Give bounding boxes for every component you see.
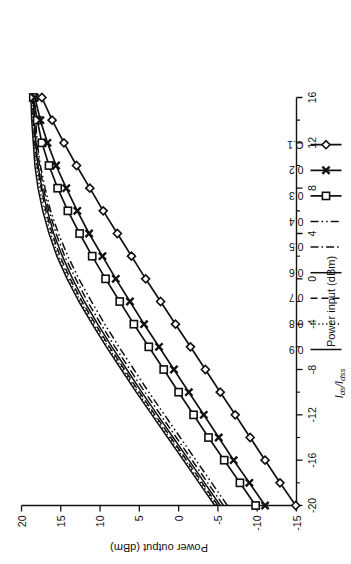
- y-tick-label: 20: [15, 515, 27, 527]
- y-tick-label: -15: [290, 515, 302, 530]
- data-point-marker: [127, 252, 135, 260]
- legend-label: 0.6: [288, 266, 303, 278]
- data-point-marker: [64, 207, 71, 214]
- data-point-marker: [185, 388, 192, 395]
- data-point-marker: [145, 343, 152, 350]
- legend-label: 0.5: [288, 241, 303, 253]
- data-point-marker: [45, 161, 52, 168]
- data-point-marker: [156, 297, 164, 305]
- data-point-marker: [186, 342, 194, 350]
- data-point-marker: [236, 479, 243, 486]
- data-point-marker: [112, 275, 119, 282]
- series-C.1: [37, 93, 299, 509]
- x-tick-label: -12: [305, 407, 317, 422]
- data-point-marker: [204, 433, 211, 440]
- data-point-marker: [101, 275, 108, 282]
- figure-root: -20-16-12-8-40481216-15-10-505101520Powe…: [0, 0, 351, 564]
- data-point-marker: [73, 207, 80, 214]
- x-tick-label: 0: [305, 275, 317, 281]
- series-0.6: [33, 97, 220, 505]
- data-point-marker: [155, 343, 162, 350]
- data-point-marker: [215, 433, 222, 440]
- series-line: [33, 97, 255, 505]
- y-tick-label: 15: [54, 515, 66, 527]
- data-point-marker: [322, 192, 329, 199]
- legend: Ids/Idss0.90.80 70.60.50.40.30.2C.1: [287, 138, 346, 397]
- series-line: [34, 97, 264, 505]
- data-point-marker: [322, 140, 330, 148]
- legend-label: 0.4: [288, 215, 303, 227]
- legend-label: 0.9: [288, 343, 303, 355]
- x-axis-title: Power input (dBm): [324, 255, 336, 346]
- data-point-marker: [98, 252, 105, 259]
- y-tick-label: 10: [94, 515, 106, 527]
- legend-label: 0.3: [288, 189, 303, 201]
- data-point-marker: [141, 274, 149, 282]
- legend-label: 0.8: [288, 317, 303, 329]
- data-point-marker: [54, 184, 61, 191]
- data-point-marker: [220, 456, 227, 463]
- power-transfer-chart: -20-16-12-8-40481216-15-10-505101520Powe…: [0, 0, 351, 564]
- y-tick-label: -5: [211, 515, 223, 524]
- series-line: [32, 97, 217, 505]
- legend-label: 0.2: [288, 164, 303, 176]
- data-point-marker: [245, 479, 252, 486]
- y-tick-label: -10: [251, 515, 263, 530]
- rotated-figure: -20-16-12-8-40481216-15-10-505101520Powe…: [0, 0, 351, 564]
- data-point-marker: [130, 320, 137, 327]
- data-point-marker: [85, 229, 92, 236]
- series-07: [32, 97, 217, 505]
- data-point-marker: [140, 320, 147, 327]
- data-point-marker: [230, 456, 237, 463]
- data-point-marker: [72, 161, 80, 169]
- data-point-marker: [160, 365, 167, 372]
- data-point-marker: [246, 433, 254, 441]
- x-tick-label: 12: [305, 136, 317, 148]
- x-tick-label: 4: [305, 230, 317, 236]
- data-point-marker: [200, 411, 207, 418]
- data-point-marker: [116, 297, 123, 304]
- data-point-marker: [231, 410, 239, 418]
- data-point-marker: [189, 411, 196, 418]
- legend-label: C.1: [287, 138, 304, 150]
- series-0.2: [31, 93, 268, 508]
- data-point-marker: [201, 365, 209, 373]
- y-tick-label: 0: [172, 515, 184, 521]
- data-point-marker: [48, 116, 56, 124]
- data-point-marker: [175, 388, 182, 395]
- data-point-marker: [276, 478, 284, 486]
- data-point-marker: [126, 297, 133, 304]
- data-point-marker: [59, 138, 67, 146]
- x-tick-label: -16: [305, 452, 317, 467]
- data-point-marker: [76, 229, 83, 236]
- y-axis-title: Power output (dBm): [110, 541, 208, 553]
- legend-label: 0 7: [288, 292, 303, 304]
- x-tick-label: -20: [305, 497, 317, 512]
- data-point-marker: [113, 229, 121, 237]
- data-point-marker: [171, 320, 179, 328]
- data-point-marker: [261, 456, 269, 464]
- data-point-marker: [99, 206, 107, 214]
- y-tick-label: 5: [133, 515, 145, 521]
- data-point-marker: [85, 184, 93, 192]
- data-point-marker: [216, 388, 224, 396]
- x-tick-label: 8: [305, 185, 317, 191]
- data-point-marker: [170, 365, 177, 372]
- x-tick-label: 16: [305, 91, 317, 103]
- chart-canvas: -20-16-12-8-40481216-15-10-505101520Powe…: [0, 0, 351, 564]
- data-point-marker: [252, 501, 259, 508]
- series-line: [33, 97, 220, 505]
- legend-title: Ids/Idss: [332, 368, 346, 398]
- data-point-marker: [88, 252, 95, 259]
- x-tick-label: -8: [305, 364, 317, 373]
